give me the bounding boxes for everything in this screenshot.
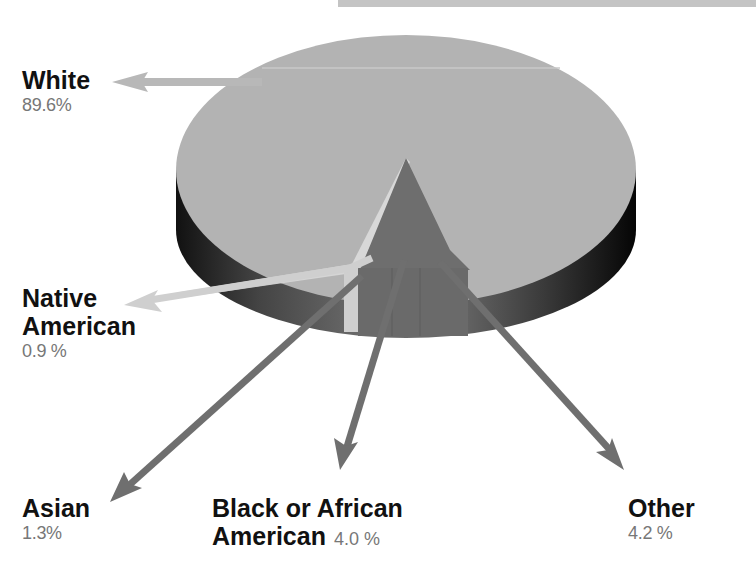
label-white: White 89.6% — [22, 66, 90, 116]
label-white-pct: 89.6% — [22, 94, 90, 116]
label-asian: Asian 1.3% — [22, 494, 90, 544]
label-black-pct: 4.0 % — [334, 529, 380, 549]
label-white-name: White — [22, 66, 90, 94]
label-black: Black or African American4.0 % — [212, 494, 403, 553]
label-native-line2: American — [22, 312, 136, 340]
label-native-pct: 0.9 % — [22, 340, 136, 362]
label-asian-pct: 1.3% — [22, 522, 90, 544]
label-other: Other 4.2 % — [628, 494, 695, 544]
label-other-name: Other — [628, 494, 695, 522]
arrow-asian — [110, 276, 362, 502]
label-native-american: Native American 0.9 % — [22, 284, 136, 362]
label-native-line1: Native — [22, 284, 136, 312]
label-black-line2: American — [212, 522, 326, 550]
label-other-pct: 4.2 % — [628, 522, 695, 544]
label-black-line1: Black or African — [212, 494, 403, 522]
label-asian-name: Asian — [22, 494, 90, 522]
